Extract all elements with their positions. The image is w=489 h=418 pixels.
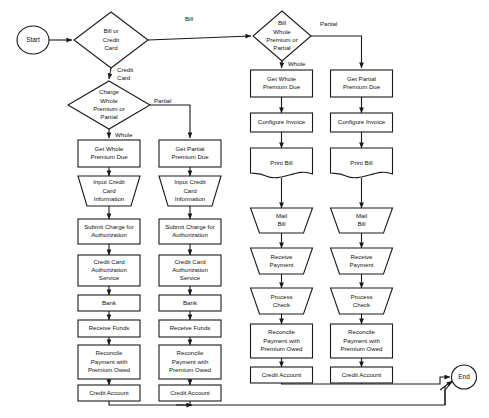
node-c1n2[interactable]: Input CreditCardInformation <box>78 176 140 206</box>
node-label-c2n5: Bank <box>183 299 198 306</box>
node-c3n2[interactable]: Configure Invoice <box>251 113 313 132</box>
svg-text:Reconcile: Reconcile <box>177 349 204 356</box>
edge-label-partial-left: Partial <box>154 97 171 104</box>
node-label-c4n2: Configure Invoice <box>338 118 386 125</box>
node-c2n8[interactable]: Credit Account <box>159 385 221 401</box>
svg-text:Payment with: Payment with <box>91 358 128 365</box>
node-label-c3n1: Get WholePremium Due <box>263 75 301 90</box>
flow-column-cc-partial: Get PartialPremium DueInput CreditCardIn… <box>159 140 221 401</box>
node-c1n1[interactable]: Get WholePremium Due <box>78 140 140 167</box>
flow-column-cc-whole: Get WholePremium DueInput CreditCardInfo… <box>78 140 140 401</box>
node-c2n7[interactable]: ReconcilePayment withPremium Owed <box>159 345 221 379</box>
svg-text:Print Bill: Print Bill <box>270 159 292 166</box>
svg-text:Authorization: Authorization <box>91 266 127 273</box>
svg-text:Bill: Bill <box>357 220 365 227</box>
decision-bill-whole-or-partial[interactable]: BillWholePremium orPartial <box>253 11 311 61</box>
svg-text:Payment with: Payment with <box>343 337 380 344</box>
node-label-c2n8: Credit Account <box>170 389 210 396</box>
node-c3n1[interactable]: Get WholePremium Due <box>251 70 313 97</box>
edge-label-partial-right: Partial <box>320 20 337 27</box>
svg-text:Reconcile: Reconcile <box>96 349 123 356</box>
node-label-c4n1: Get PartialPremium Due <box>343 75 381 90</box>
svg-text:Bill: Bill <box>278 19 286 26</box>
svg-text:Authorization: Authorization <box>172 231 208 238</box>
svg-text:Bill or: Bill or <box>103 27 118 34</box>
node-c2n2[interactable]: Input CreditCardInformation <box>159 176 221 206</box>
svg-text:Payment: Payment <box>349 261 373 268</box>
node-c4n6[interactable]: ProcessCheck <box>331 288 393 314</box>
svg-text:Configure Invoice: Configure Invoice <box>258 118 306 125</box>
node-c3n6[interactable]: ProcessCheck <box>251 288 313 314</box>
node-label-c1n3: Submit Charge forAuthorization <box>84 223 133 238</box>
node-layer: Get WholePremium DueInput CreditCardInfo… <box>17 11 477 401</box>
node-label-c2n6: Receive Funds <box>170 324 211 331</box>
svg-text:Premium Due: Premium Due <box>171 153 209 160</box>
edge-label-whole-left: Whole <box>115 131 133 138</box>
node-c4n1[interactable]: Get PartialPremium Due <box>331 70 393 97</box>
node-c4n3[interactable]: Print Bill <box>331 148 393 178</box>
svg-text:Check: Check <box>273 301 291 308</box>
node-c1n4[interactable]: Credit CardAuthorizationService <box>78 255 140 286</box>
svg-text:Card: Card <box>104 44 117 51</box>
svg-text:Bank: Bank <box>183 299 198 306</box>
node-label-c4n6: ProcessCheck <box>350 293 372 308</box>
node-c2n4[interactable]: Credit CardAuthorizationService <box>159 255 221 286</box>
svg-text:Credit: Credit <box>103 36 120 43</box>
node-c2n1[interactable]: Get PartialPremium Due <box>159 140 221 167</box>
svg-text:Premium Owed: Premium Owed <box>169 366 211 373</box>
node-c1n3[interactable]: Submit Charge forAuthorization <box>78 219 140 244</box>
decision-label-bill-or-credit-card: Bill orCreditCard <box>103 27 120 50</box>
node-label-c4n4: MailBill <box>356 212 367 227</box>
edge-label-credit-card-line1: Credit <box>117 66 134 73</box>
node-label-c2n1: Get PartialPremium Due <box>171 145 209 160</box>
terminator-end[interactable]: End <box>452 365 477 389</box>
svg-text:Premium Owed: Premium Owed <box>88 366 130 373</box>
decision-bill-or-credit-card[interactable]: Bill orCreditCard <box>74 12 148 68</box>
node-c3n3[interactable]: Print Bill <box>251 148 313 178</box>
svg-text:Payment with: Payment with <box>172 358 209 365</box>
node-c3n5[interactable]: ReceivePayment <box>251 248 313 274</box>
svg-text:Get Whole: Get Whole <box>267 75 296 82</box>
svg-text:Process: Process <box>270 293 292 300</box>
svg-text:Get Partial: Get Partial <box>347 75 376 82</box>
terminator-start[interactable]: Start <box>17 26 49 54</box>
flowchart-canvas: Get WholePremium DueInput CreditCardInfo… <box>0 0 489 418</box>
node-c1n5[interactable]: Bank <box>78 295 140 311</box>
edge-label-whole-right: Whole <box>288 60 306 67</box>
node-c2n5[interactable]: Bank <box>159 295 221 311</box>
svg-text:Card: Card <box>102 187 115 194</box>
edge-label-credit-card-line2: Card <box>117 74 130 81</box>
node-c3n7[interactable]: ReconcilePayment withPremium Owed <box>251 324 313 358</box>
svg-text:Whole: Whole <box>100 97 118 104</box>
node-c3n8[interactable]: Credit Account <box>251 367 313 383</box>
node-c3n4[interactable]: MailBill <box>251 208 313 233</box>
svg-text:Service: Service <box>99 274 120 281</box>
svg-text:Reconcile: Reconcile <box>268 328 295 335</box>
node-c1n7[interactable]: ReconcilePayment withPremium Owed <box>78 345 140 379</box>
svg-text:Premium Due: Premium Due <box>90 153 128 160</box>
node-c1n8[interactable]: Credit Account <box>78 385 140 401</box>
svg-text:Payment with: Payment with <box>263 337 300 344</box>
node-c4n8[interactable]: Credit Account <box>331 367 393 383</box>
svg-text:Receive: Receive <box>350 253 373 260</box>
svg-text:Mail: Mail <box>276 212 287 219</box>
svg-text:Submit Charge for: Submit Charge for <box>84 223 133 230</box>
node-label-c4n8: Credit Account <box>342 371 382 378</box>
node-c4n5[interactable]: ReceivePayment <box>331 248 393 274</box>
decision-charge-whole-or-partial[interactable]: ChargeWholePremium orPartial <box>68 81 150 129</box>
node-c4n7[interactable]: ReconcilePayment withPremium Owed <box>331 324 393 358</box>
svg-text:Configure Invoice: Configure Invoice <box>338 118 386 125</box>
node-c4n2[interactable]: Configure Invoice <box>331 113 393 132</box>
node-c1n6[interactable]: Receive Funds <box>78 320 140 337</box>
svg-text:Information: Information <box>94 195 124 202</box>
svg-text:Premium or: Premium or <box>266 36 298 43</box>
svg-text:Receive: Receive <box>270 253 293 260</box>
node-c4n4[interactable]: MailBill <box>331 208 393 233</box>
node-c2n6[interactable]: Receive Funds <box>159 320 221 337</box>
svg-text:Credit Card: Credit Card <box>93 258 124 265</box>
svg-text:Receive Funds: Receive Funds <box>89 324 130 331</box>
node-c2n3[interactable]: Submit Charge forAuthorization <box>159 219 221 244</box>
edge-label-bill: Bill <box>185 15 193 22</box>
node-label-c1n8: Credit Account <box>89 389 129 396</box>
svg-text:Authorization: Authorization <box>91 231 127 238</box>
